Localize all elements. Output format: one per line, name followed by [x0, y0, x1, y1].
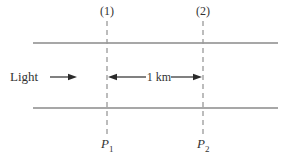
- marker-1-label: (1): [100, 4, 114, 18]
- point-p1-label: P1: [100, 136, 113, 154]
- light-direction-arrow: [50, 74, 77, 80]
- distance-label: 1 km: [147, 70, 172, 84]
- light-path-diagram: (1) (2) Light 1 km P1 P2: [0, 0, 290, 160]
- dimension-left-arrow-head: [108, 74, 117, 80]
- distance-dimension: 1 km: [108, 70, 202, 84]
- light-arrow-head: [68, 74, 77, 80]
- point-p1-subscript: 1: [109, 144, 114, 154]
- point-p2-label: P2: [196, 136, 209, 154]
- physics-figure: (1) (2) Light 1 km P1 P2: [0, 0, 290, 160]
- point-p1-base: P: [100, 136, 109, 151]
- point-p2-base: P: [196, 136, 205, 151]
- point-p2-subscript: 2: [205, 144, 210, 154]
- marker-2-label: (2): [196, 4, 210, 18]
- dimension-right-arrow-head: [193, 74, 202, 80]
- light-label: Light: [10, 69, 39, 84]
